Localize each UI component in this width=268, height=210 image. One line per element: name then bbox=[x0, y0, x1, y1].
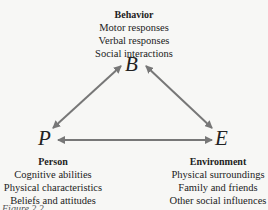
node-behavior-letter: B bbox=[125, 52, 138, 77]
behavior-item: Verbal responses bbox=[84, 34, 184, 47]
figure-caption: Figure 2.2 bbox=[2, 203, 44, 210]
person-description: Person Cognitive abilities Physical char… bbox=[0, 155, 106, 207]
environment-item: Other social influences bbox=[164, 194, 268, 207]
arrow-b-p bbox=[53, 66, 121, 128]
node-environment-letter: E bbox=[215, 126, 228, 151]
behavior-title: Behavior bbox=[84, 8, 184, 21]
behavior-item: Motor responses bbox=[84, 21, 184, 34]
node-person-letter: P bbox=[38, 126, 51, 151]
person-item: Physical characteristics bbox=[0, 181, 106, 194]
person-title: Person bbox=[0, 155, 106, 168]
environment-item: Family and friends bbox=[164, 181, 268, 194]
environment-title: Environment bbox=[164, 155, 268, 168]
environment-description: Environment Physical surroundings Family… bbox=[164, 155, 268, 207]
arrow-b-e bbox=[146, 66, 212, 128]
environment-item: Physical surroundings bbox=[164, 168, 268, 181]
person-item: Cognitive abilities bbox=[0, 168, 106, 181]
